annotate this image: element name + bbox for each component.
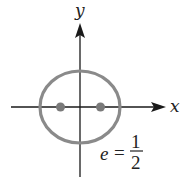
equals-sign: = — [114, 142, 125, 163]
eccentricity-variable: e — [100, 143, 108, 164]
x-axis-label: x — [170, 96, 180, 116]
fraction-denominator: 2 — [131, 152, 141, 173]
ellipse-diagram: y x e = 1 2 — [0, 0, 183, 185]
y-axis-label: y — [74, 0, 85, 20]
eccentricity-label: e = 1 2 — [100, 131, 143, 173]
right-focus-point — [96, 103, 105, 112]
fraction-numerator: 1 — [131, 131, 141, 152]
left-focus-point — [56, 103, 65, 112]
